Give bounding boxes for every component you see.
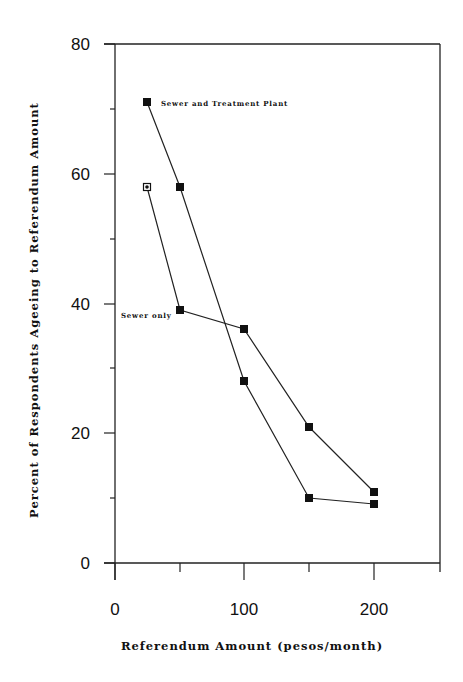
data-point: [176, 306, 184, 314]
x-axis-title: Referendum Amount (pesos/month): [121, 639, 383, 653]
data-point: [240, 325, 248, 333]
data-point: [176, 183, 184, 191]
x-tick-label-0: 0: [110, 600, 119, 619]
data-point: [240, 377, 248, 385]
x-tick-label-200: 200: [360, 600, 388, 619]
y-tick-label-40: 40: [71, 295, 90, 314]
series-label-sewer-only: Sewer only: [121, 311, 172, 320]
y-ticks: [104, 44, 115, 563]
line-chart: 80 60 40 20 0 0 100 200 Referendum Amoun…: [0, 0, 463, 682]
data-point: [370, 488, 378, 496]
series-label-sewer-and-treatment-plant: Sewer and Treatment Plant: [161, 99, 288, 108]
y-tick-label-60: 60: [71, 165, 90, 184]
y-tick-label-0: 0: [81, 554, 90, 573]
y-tick-label-20: 20: [71, 424, 90, 443]
data-point: [305, 494, 313, 502]
y-tick-label-80: 80: [71, 35, 90, 54]
x-tick-label-100: 100: [230, 600, 258, 619]
y-axis-title: Percent of Respondents Ageeing to Refere…: [27, 102, 41, 518]
series-sewer-only-markers: [144, 184, 379, 497]
data-point: [305, 423, 313, 431]
data-point-dot: [145, 185, 149, 189]
data-point: [143, 98, 151, 106]
series-sewer-and-treatment-plant-line: [147, 102, 374, 504]
data-point: [370, 500, 378, 508]
series-sewer-only-line: [147, 187, 374, 492]
x-ticks: [115, 563, 374, 580]
